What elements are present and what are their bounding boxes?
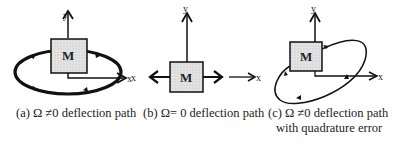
mass-label-c: M: [300, 49, 312, 64]
caption-a: (a) Ω ≠0 deflection path: [16, 106, 136, 121]
mass-label-b: M: [180, 70, 192, 85]
panel-c: [275, 13, 377, 104]
x-axis: [315, 71, 376, 76]
mass-label-a: M: [62, 48, 74, 63]
x-axis-label-b-left: x: [131, 70, 136, 85]
x-axis-label-b: x: [256, 70, 261, 85]
y-axis-label-b: y: [183, 1, 188, 16]
caption-c-line1: (c) Ω ≠0 deflection path: [268, 106, 388, 121]
panel-b: [150, 13, 255, 92]
caption-b: (b) Ω= 0 deflection path: [143, 106, 264, 121]
y-axis-label-c: y: [311, 1, 316, 16]
y-axis-label-a: y: [63, 8, 68, 23]
caption-c-line2: with quadrature error: [276, 121, 382, 136]
x-axis-label-c: x: [378, 69, 383, 84]
